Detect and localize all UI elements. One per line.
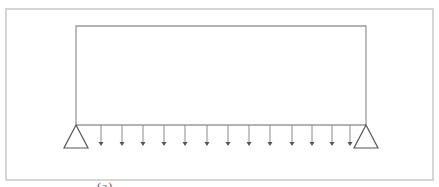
outer-border	[6, 9, 433, 180]
down-arrow-icon	[205, 125, 210, 146]
figure-caption: (a)	[97, 181, 113, 187]
down-arrow-icon	[330, 125, 335, 146]
right-pin-support-icon	[354, 125, 378, 148]
left-pin-support-icon	[64, 125, 88, 148]
down-arrow-icon	[120, 125, 125, 146]
frame-diagram	[0, 0, 439, 187]
down-arrow-icon	[290, 125, 295, 146]
down-arrow-icon	[348, 125, 353, 146]
down-arrow-icon	[99, 125, 104, 146]
down-arrow-icon	[183, 125, 188, 146]
frame-columns-and-girder	[76, 26, 366, 125]
pin-supports	[64, 125, 378, 148]
down-arrow-icon	[310, 125, 315, 146]
down-arrow-icon	[268, 125, 273, 146]
portal-frame	[76, 26, 366, 125]
down-arrow-icon	[247, 125, 252, 146]
down-arrow-icon	[226, 125, 231, 146]
down-arrow-icon	[141, 125, 146, 146]
distributed-load-arrows	[99, 125, 353, 146]
down-arrow-icon	[162, 125, 167, 146]
